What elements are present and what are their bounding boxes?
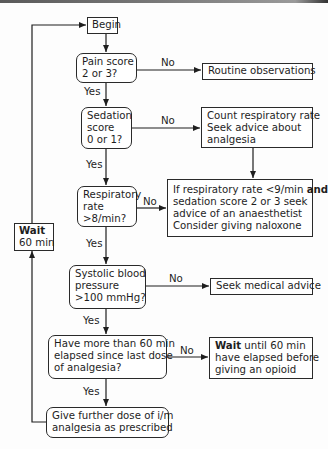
node-routine-label: Routine observations [208,65,316,76]
edge-label-pain-no: No [161,57,175,69]
edge-label-sedation-no: No [161,115,175,127]
node-sedation-score: Sedation score 0 or 1? [81,107,132,149]
wait-until-text: until 60 min [241,340,305,351]
node-count-line: analgesia [207,134,307,146]
node-count-line: Count respiratory rate [207,110,307,122]
edge-label-systolic-yes: Yes [83,315,99,327]
node-seek-medical-advice: Seek medical advice [210,278,313,295]
node-resp-line: >8/min? [83,213,131,225]
node-elapsed-line: of analgesia? [54,362,161,374]
node-sedation-line: 0 or 1? [87,134,126,146]
node-pain-line: 2 or 3? [82,68,131,80]
node-respiratory-rate: Respiratory rate >8/min? [77,186,137,227]
node-resp-line: Respiratory [83,189,131,201]
node-if-respiratory: If respiratory rate <9/min and sedation … [167,179,313,237]
node-systolic-line: >100 mmHg? [75,292,140,304]
node-count-respiratory: Count respiratory rate Seek advice about… [201,107,313,148]
node-wait-until: Wait until 60 min have elapsed before gi… [209,337,313,379]
node-systolic-line: Systolic blood [75,268,140,280]
node-give-line: analgesia as prescribed [52,422,163,434]
edge-label-resp-yes: Yes [86,238,102,250]
node-ifresp-line: advice of an anaesthetist [173,208,307,220]
node-wait-until-line: have elapsed before [215,352,307,364]
wait-bold: Wait [19,225,45,236]
node-elapsed-60: Have more than 60 min elapsed since last… [48,335,167,379]
node-ifresp-line: sedation score 2 or 3 seek [173,196,307,208]
wait-text: 60 min [19,237,49,249]
wait-until-bold: Wait [215,340,241,351]
edge-label-elapsed-no: No [180,345,194,357]
node-sedation-line: Sedation [87,110,126,122]
edge-label-systolic-no: No [169,273,183,285]
ifresp-bold: and [307,184,328,195]
node-routine-observations: Routine observations [202,63,313,80]
node-give-dose: Give further dose of i/m analgesia as pr… [46,407,169,438]
node-begin: Begin [87,17,118,34]
node-elapsed-line: Have more than 60 min [54,338,161,350]
edge-label-sedation-yes: Yes [86,159,102,171]
edge-label-pain-yes: Yes [84,86,100,98]
node-sedation-line: score [87,122,126,134]
node-wait-60: Wait 60 min [14,223,54,251]
node-begin-label: Begin [92,19,121,30]
node-systolic-bp: Systolic blood pressure >100 mmHg? [69,265,146,309]
node-ifresp-line: If respiratory rate <9/min and [173,184,307,196]
edge-label-resp-no: No [143,196,157,208]
node-count-line: Seek advice about [207,122,307,134]
node-wait-until-line: giving an opioid [215,364,307,376]
node-elapsed-line: elapsed since last dose [54,350,161,362]
ifresp-text: If respiratory rate <9/min [173,184,307,195]
node-systolic-line: pressure [75,280,140,292]
node-seek-medical-label: Seek medical advice [216,280,321,291]
node-pain-line: Pain score [82,56,131,68]
node-resp-line: rate [83,201,131,213]
node-ifresp-line: Consider giving naloxone [173,220,307,232]
node-pain-score: Pain score 2 or 3? [76,53,137,83]
edge-label-elapsed-yes: Yes [83,386,99,398]
node-give-line: Give further dose of i/m [52,410,163,422]
